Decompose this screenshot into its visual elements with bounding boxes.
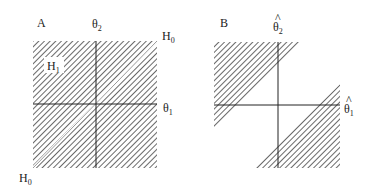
theta1-hat-label: θ1 <box>344 102 354 118</box>
theta2-hat-label: θ2 <box>273 20 283 36</box>
h0-bottom-label: H0 <box>19 171 32 187</box>
hypothesis-diagram: A θ2 H0 H1 θ1 H0 B ^ θ2 ^ θ1 <box>0 0 367 192</box>
panel-b: B ^ θ2 ^ θ1 <box>214 11 354 168</box>
lower-rejection-region <box>254 84 340 168</box>
panel-a-label: A <box>37 16 46 30</box>
theta1-label: θ1 <box>163 101 173 117</box>
theta2-label: θ2 <box>92 17 102 33</box>
upper-rejection-region <box>214 42 302 128</box>
panel-a: A θ2 H0 H1 θ1 H0 <box>19 16 175 187</box>
panel-b-label: B <box>220 16 228 30</box>
h0-top-label: H0 <box>162 29 175 45</box>
